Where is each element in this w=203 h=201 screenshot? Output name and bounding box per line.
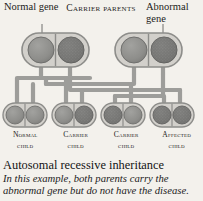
child-4-gene-right-abnormal-shade bbox=[173, 106, 191, 124]
child-1-label-line2: child bbox=[0, 141, 51, 152]
parent-mother bbox=[22, 33, 89, 67]
parent-father-gene-normal bbox=[121, 37, 147, 63]
child-1-gene-left-normal bbox=[6, 106, 24, 124]
child-1-label-line1: Normal bbox=[0, 130, 51, 141]
child-3-gene-left-abnormal-shade bbox=[104, 106, 122, 124]
child-2-gene-left-normal bbox=[55, 106, 73, 124]
diagram-caption: In this example, both parents carry the … bbox=[3, 172, 201, 197]
child-3-label-line2: child bbox=[101, 141, 152, 152]
child-2 bbox=[52, 103, 96, 127]
child-labels-row: Normal child Carrier child Carrier child… bbox=[0, 130, 202, 151]
child-4-label: Affected child bbox=[152, 130, 203, 151]
child-3 bbox=[101, 103, 145, 127]
inheritance-connectors bbox=[17, 66, 180, 102]
diagram-title: Autosomal recessive inheritance bbox=[3, 158, 201, 172]
child-2-label: Carrier child bbox=[51, 130, 102, 151]
child-1-label: Normal child bbox=[0, 130, 51, 151]
child-4-label-line1: Affected bbox=[152, 130, 203, 141]
child-3-label-line1: Carrier bbox=[101, 130, 152, 141]
parent-mother-gene-normal bbox=[28, 37, 54, 63]
child-3-gene-right-normal bbox=[124, 106, 142, 124]
parent-father bbox=[115, 33, 182, 67]
connector-a-child1-left bbox=[17, 74, 41, 102]
child-3-label: Carrier child bbox=[101, 130, 152, 151]
parent-mother-gene-abnormal-shade bbox=[58, 37, 84, 63]
child-2-label-line2: child bbox=[51, 141, 102, 152]
bottom-fade bbox=[0, 196, 202, 201]
child-1-gene-right-normal bbox=[26, 106, 44, 124]
caption-block: Autosomal recessive inheritance In this … bbox=[3, 158, 201, 197]
inheritance-diagram: Normal gene Carrier parents Abnormal gen… bbox=[0, 0, 202, 201]
child-1 bbox=[3, 103, 47, 127]
child-4 bbox=[150, 103, 194, 127]
child-4-gene-left-abnormal-shade bbox=[153, 106, 171, 124]
parent-father-gene-abnormal-shade bbox=[151, 37, 177, 63]
child-2-label-line1: Carrier bbox=[51, 130, 102, 141]
child-2-gene-right-abnormal-shade bbox=[75, 106, 93, 124]
child-4-label-line2: child bbox=[152, 141, 203, 152]
